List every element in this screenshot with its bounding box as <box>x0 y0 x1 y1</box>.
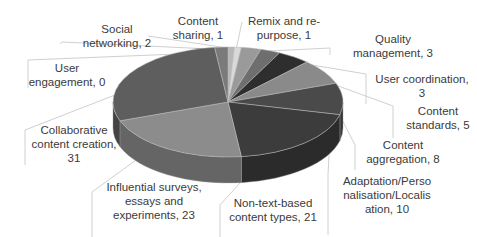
data-label: User engagement, 0 <box>22 61 112 89</box>
data-label: Content standards, 5 <box>398 104 477 132</box>
data-label: Quality management, 3 <box>348 32 438 60</box>
data-label: Collaborative content creation, 31 <box>24 123 124 165</box>
data-label: Non-text-based content types, 21 <box>218 196 328 224</box>
data-label: Content aggregation, 8 <box>358 138 448 166</box>
data-label: Adaptation/Perso nalisation/Localis atio… <box>332 174 442 216</box>
pie-top-face <box>113 47 343 157</box>
data-label: User coordination, 3 <box>370 72 474 100</box>
data-label: Social networking, 2 <box>72 22 162 50</box>
data-label: Content sharing, 1 <box>163 14 233 42</box>
data-label: Remix and re- purpose, 1 <box>244 14 324 42</box>
data-label: Influential surveys, essays and experime… <box>94 180 214 222</box>
leader-line-2 <box>236 22 242 50</box>
